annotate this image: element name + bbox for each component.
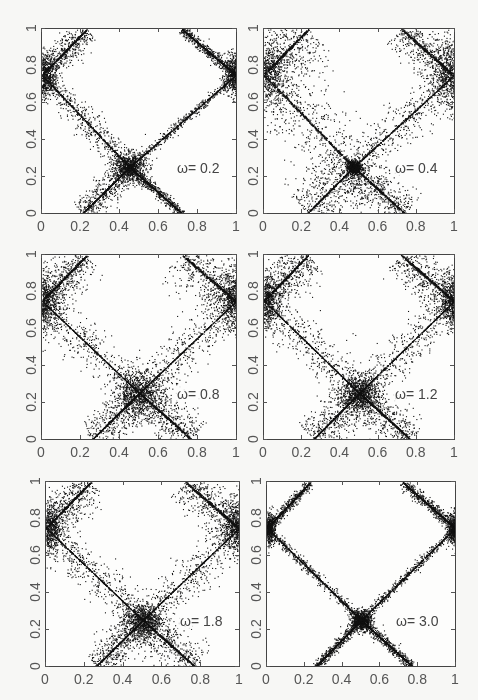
x-tick-mark	[416, 254, 417, 258]
x-tick-mark	[379, 662, 380, 666]
x-tick-label: 0.8	[187, 444, 206, 460]
y-tick-mark	[41, 365, 45, 366]
x-tick-mark	[416, 209, 417, 213]
x-tick-label: 0.2	[70, 444, 89, 460]
y-tick-label: 0	[245, 209, 261, 217]
y-tick-label: 0.6	[245, 92, 261, 111]
y-tick-mark	[45, 666, 49, 667]
y-tick-mark	[450, 102, 454, 103]
x-tick-label: 0.2	[74, 671, 93, 687]
x-tick-label: 0.4	[109, 218, 128, 234]
x-tick-mark	[80, 209, 81, 213]
y-tick-mark	[45, 555, 49, 556]
x-tick-mark	[455, 662, 456, 666]
y-tick-mark	[451, 518, 455, 519]
x-tick-label: 0.2	[294, 671, 313, 687]
x-tick-label: 1	[232, 218, 240, 234]
y-tick-mark	[41, 65, 45, 66]
y-tick-mark	[232, 102, 236, 103]
x-tick-mark	[455, 481, 456, 485]
x-tick-label: 0.6	[368, 218, 387, 234]
y-tick-mark	[266, 592, 270, 593]
x-tick-label: 0.8	[407, 671, 426, 687]
x-tick-mark	[158, 435, 159, 439]
x-tick-mark	[80, 254, 81, 258]
x-tick-label: 0.8	[406, 218, 425, 234]
y-tick-mark	[263, 28, 267, 29]
x-tick-mark	[119, 435, 120, 439]
plot-frame	[45, 481, 240, 667]
x-tick-label: 1	[451, 671, 459, 687]
x-tick-mark	[301, 435, 302, 439]
y-tick-label: 0.4	[27, 582, 43, 601]
y-tick-mark	[232, 213, 236, 214]
y-tick-label: 0.8	[23, 281, 39, 300]
y-tick-label: 0	[248, 662, 264, 670]
x-tick-label: 0.2	[291, 218, 310, 234]
x-tick-mark	[378, 28, 379, 32]
y-tick-mark	[232, 439, 236, 440]
x-tick-label: 0.2	[70, 218, 89, 234]
y-tick-mark	[41, 254, 45, 255]
scatter-points	[264, 29, 454, 213]
x-tick-mark	[342, 481, 343, 485]
x-tick-mark	[236, 435, 237, 439]
y-tick-label: 0.2	[245, 392, 261, 411]
x-tick-label: 0.6	[370, 671, 389, 687]
x-tick-mark	[236, 209, 237, 213]
y-tick-mark	[232, 139, 236, 140]
x-tick-mark	[339, 254, 340, 258]
x-tick-mark	[301, 28, 302, 32]
y-tick-mark	[450, 439, 454, 440]
x-tick-label: 0.4	[330, 218, 349, 234]
y-tick-mark	[266, 555, 270, 556]
x-tick-mark	[197, 28, 198, 32]
x-tick-mark	[416, 28, 417, 32]
x-tick-label: 0.4	[330, 444, 349, 460]
y-tick-mark	[263, 65, 267, 66]
y-tick-label: 0.8	[27, 508, 43, 527]
y-tick-mark	[41, 176, 45, 177]
x-tick-mark	[119, 209, 120, 213]
x-tick-mark	[197, 435, 198, 439]
x-tick-label: 0.4	[113, 671, 132, 687]
plot-frame	[41, 254, 237, 440]
y-tick-label: 0	[23, 209, 39, 217]
x-tick-mark	[80, 435, 81, 439]
x-tick-mark	[417, 481, 418, 485]
y-tick-mark	[451, 629, 455, 630]
y-tick-mark	[45, 481, 49, 482]
scatter-points	[42, 255, 236, 439]
scatter-points	[46, 482, 239, 666]
omega-label: ω= 1.2	[393, 386, 439, 402]
x-tick-mark	[161, 481, 162, 485]
y-tick-mark	[266, 518, 270, 519]
y-tick-label: 0.2	[245, 166, 261, 185]
plot-frame	[263, 28, 455, 214]
y-tick-mark	[232, 365, 236, 366]
x-tick-mark	[197, 209, 198, 213]
y-tick-mark	[41, 28, 45, 29]
y-tick-mark	[232, 328, 236, 329]
x-tick-label: 1	[450, 218, 458, 234]
y-tick-mark	[451, 592, 455, 593]
x-tick-mark	[197, 254, 198, 258]
x-tick-mark	[454, 254, 455, 258]
x-tick-mark	[304, 481, 305, 485]
omega-label: ω= 1.8	[178, 613, 224, 629]
x-tick-label: 0.6	[152, 671, 171, 687]
plot-frame	[266, 481, 456, 667]
y-tick-mark	[41, 402, 45, 403]
x-tick-mark	[158, 254, 159, 258]
x-tick-label: 0.4	[332, 671, 351, 687]
x-tick-mark	[454, 435, 455, 439]
x-tick-mark	[339, 209, 340, 213]
y-tick-mark	[451, 555, 455, 556]
y-tick-label: 0.2	[27, 619, 43, 638]
y-tick-mark	[450, 291, 454, 292]
y-tick-mark	[451, 666, 455, 667]
x-tick-label: 0	[41, 671, 49, 687]
y-tick-label: 0.6	[248, 545, 264, 564]
x-tick-label: 0.8	[406, 444, 425, 460]
x-tick-mark	[378, 254, 379, 258]
